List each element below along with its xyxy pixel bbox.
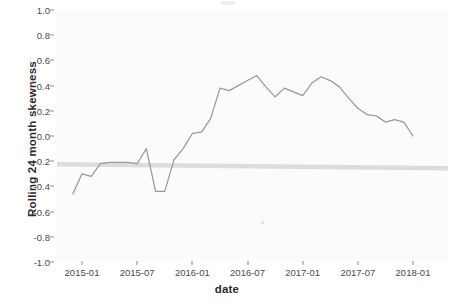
x-tick-mark bbox=[302, 261, 303, 265]
x-tick-label: 2015-07 bbox=[120, 267, 155, 278]
x-tick-mark bbox=[357, 261, 358, 265]
x-tick-label: 2015-01 bbox=[65, 267, 100, 278]
x-tick-label: 2016-01 bbox=[175, 267, 210, 278]
x-tick-mark bbox=[137, 261, 138, 265]
x-tick-label: 2017-07 bbox=[340, 267, 375, 278]
x-tick-label: 2018-01 bbox=[396, 267, 431, 278]
x-tick-mark bbox=[192, 261, 193, 265]
x-axis-title: date bbox=[0, 283, 454, 295]
chart-root: 1.00.80.60.40.20.0-0.2-0.4-0.6-0.8-1.0 R… bbox=[0, 0, 454, 303]
x-tick-mark bbox=[82, 261, 83, 265]
x-tick-label: 2017-01 bbox=[285, 267, 320, 278]
x-tick-mark bbox=[247, 261, 248, 265]
x-tick-mark bbox=[413, 261, 414, 265]
x-tick-label: 2016-07 bbox=[230, 267, 265, 278]
x-axis-ticks: 2015-012015-072016-012016-072017-012017-… bbox=[0, 0, 454, 303]
